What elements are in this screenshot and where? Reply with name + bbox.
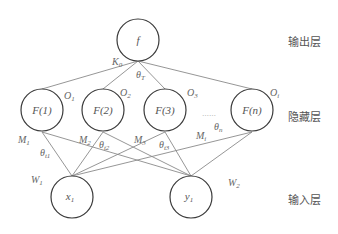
input-node-x1: x1 [51, 176, 93, 218]
output-hidden-edges [42, 61, 252, 89]
hidden-node-label: F(n) [241, 104, 262, 117]
input-node-y1: y1 [170, 176, 212, 218]
hidden-node-label: F(2) [92, 104, 113, 117]
hidden-node-Fn: F(n) [231, 89, 273, 131]
param-thetaT1: θt1 [40, 147, 50, 160]
param-thetaT2: θt2 [99, 139, 110, 152]
input-node-subscript: 1 [71, 196, 75, 204]
param-M3: M3 [133, 134, 146, 147]
param-O2: O2 [120, 87, 131, 100]
param-thetaT: θT [136, 69, 146, 82]
param-Oi: Oi [270, 87, 279, 100]
hidden-node-label: F(1) [31, 104, 52, 117]
param-W2: W2 [228, 177, 240, 190]
param-W1: W1 [31, 174, 43, 187]
param-O3: O3 [187, 87, 198, 100]
layer-label-input: 输入层 [288, 193, 321, 207]
neural-network-diagram: f F(1) F(2) F(3) …… F(n) x1 y1 K0 θT O1 … [0, 0, 338, 234]
param-Mi: Mi [195, 130, 206, 143]
output-node-f: f [117, 19, 159, 61]
layer-label-output: 输出层 [288, 35, 321, 49]
hidden-input-edges [42, 132, 252, 176]
param-M1: M1 [17, 134, 30, 147]
layer-label-hidden: 隐藏层 [288, 111, 321, 124]
input-node-subscript: 1 [190, 196, 194, 204]
param-O1: O1 [64, 90, 75, 103]
hidden-ellipsis: …… [202, 110, 216, 118]
hidden-node-F3: F(3) [144, 89, 186, 131]
hidden-node-label: F(3) [154, 104, 175, 117]
hidden-node-F2: F(2) [82, 89, 124, 131]
param-thetaN: θn [214, 121, 223, 134]
hidden-node-F1: F(1) [21, 89, 63, 131]
param-thetaT3: θt3 [159, 139, 170, 152]
